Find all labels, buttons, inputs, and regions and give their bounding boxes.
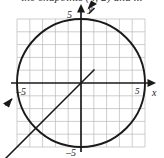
x-axis-arrow [148, 79, 157, 87]
coordinate-plot: 5 –5 –5 5 y x [0, 0, 164, 158]
math-figure: the endpoints (4, 2) and ... [0, 0, 164, 158]
x-right-tick-label: 5 [135, 86, 140, 96]
y-axis-arrow [77, 4, 85, 13]
y-top-tick-label: 5 [67, 9, 72, 20]
x-left-tick-label: –5 [15, 86, 26, 97]
y-bottom-tick-label: –5 [65, 147, 76, 158]
axes [11, 10, 150, 152]
y-axis-label: y [87, 3, 93, 14]
x-axis-label: x [151, 87, 157, 98]
